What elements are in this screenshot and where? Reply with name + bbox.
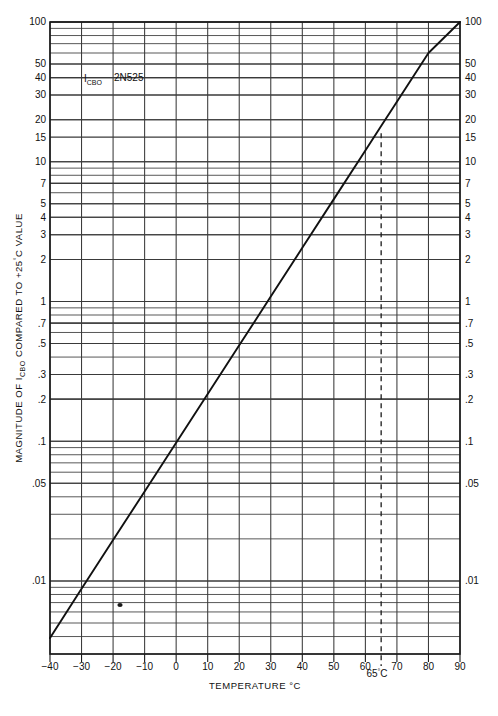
y-tick-label-left: 10 [35,156,47,167]
chart-svg: 100504030201510754321.7.5.3.2.1.05.01 10… [0,0,498,716]
y-tick-label-right: .05 [465,478,479,489]
x-tick-label: −30 [73,661,90,672]
y-tick-label-left: 2 [40,254,46,265]
x-tick-label: 80 [423,661,435,672]
x-axis-tick-labels: −40−30−20−100102030405060708090 [42,661,466,672]
y-tick-label-right: 4 [465,212,471,223]
y-tick-label-left: .5 [38,338,47,349]
y-tick-label-left: .7 [38,318,47,329]
y-tick-label-left: 7 [40,178,46,189]
y-tick-label-right: 40 [465,72,477,83]
y-tick-label-left: 4 [40,212,46,223]
x-tick-label: 90 [454,661,466,672]
y-tick-label-left: 5 [40,198,46,209]
y-axis-tick-labels-left: 100504030201510754321.7.5.3.2.1.05.01 [29,16,46,586]
y-tick-label-right: 5 [465,198,471,209]
y-tick-label-left: .01 [32,575,46,586]
y-axis-tick-labels-right: 100504030201510754321.7.5.3.2.1.05.01 [465,16,482,586]
y-tick-label-right: .3 [465,369,474,380]
y-tick-label-left: 1 [40,296,46,307]
y-tick-label-left: 3 [40,229,46,240]
x-tick-label: 40 [297,661,309,672]
y-tick-label-right: .7 [465,318,474,329]
x-tick-label: 70 [391,661,403,672]
x-tick-label: 50 [328,661,340,672]
y-tick-label-right: 3 [465,229,471,240]
x-tick-label: −10 [136,661,153,672]
y-tick-label-right: .1 [465,436,474,447]
y-tick-label-left: 30 [35,89,47,100]
x-tick-label: −20 [105,661,122,672]
x-tick-label: 20 [234,661,246,672]
x-axis-title: TEMPERATURE °C [209,680,301,691]
y-tick-label-left: 40 [35,72,47,83]
scan-artifact-dot [117,603,122,607]
x-tick-label: −40 [42,661,59,672]
y-tick-label-right: 30 [465,89,477,100]
device-annotation: 2N525 [114,72,144,83]
x-tick-label: 30 [265,661,277,672]
y-tick-label-right: 20 [465,114,477,125]
y-tick-label-left: 100 [29,16,46,27]
65c-annotation: 65°C [366,668,387,679]
y-tick-label-left: 50 [35,58,47,69]
x-tick-label: 10 [202,661,214,672]
y-tick-label-left: 15 [35,132,47,143]
plot-background [50,22,460,654]
y-tick-label-right: 7 [465,178,471,189]
x-tick-label: 0 [173,661,179,672]
chart-figure: 100504030201510754321.7.5.3.2.1.05.01 10… [0,0,498,716]
y-tick-label-right: 50 [465,58,477,69]
y-tick-label-left: .05 [32,478,46,489]
y-axis-title: MAGNITUDE OF ICBO COMPARED TO +25°C VALU… [13,213,26,463]
y-tick-label-right: .2 [465,394,474,405]
y-tick-label-left: .1 [38,436,47,447]
y-tick-label-left: 20 [35,114,47,125]
y-tick-label-right: .01 [465,575,479,586]
y-tick-label-right: .5 [465,338,474,349]
y-tick-label-left: .2 [38,394,47,405]
y-tick-label-right: 100 [465,16,482,27]
y-tick-label-left: .3 [38,369,47,380]
y-tick-label-right: 2 [465,254,471,265]
y-tick-label-right: 15 [465,132,477,143]
y-tick-label-right: 10 [465,156,477,167]
y-tick-label-right: 1 [465,296,471,307]
